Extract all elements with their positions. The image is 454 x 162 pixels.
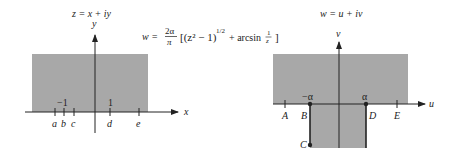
formula-body: [(z² − 1) bbox=[180, 31, 217, 44]
formula-frac2-num: 1 bbox=[267, 29, 271, 37]
tick-one: 1 bbox=[108, 97, 113, 108]
point-E: E bbox=[393, 110, 400, 121]
point-A: A bbox=[281, 110, 289, 121]
z-plane-title: z = x + iy bbox=[71, 8, 112, 19]
u-axis-label: u bbox=[429, 98, 434, 109]
tick-minus-one: −1 bbox=[57, 97, 68, 108]
formula-frac-num: 2α bbox=[165, 26, 175, 36]
point-b: b bbox=[61, 118, 66, 129]
formula-lhs: w = bbox=[142, 31, 158, 42]
formula-frac-den: π bbox=[167, 37, 172, 47]
conformal-map-diagram: x y z = x + iy −1 1 a b c d e w = 2α π [… bbox=[0, 0, 454, 162]
point-e: e bbox=[136, 118, 141, 129]
formula-frac2-den: z bbox=[265, 37, 269, 45]
mapping-formula: w = 2α π [(z² − 1) 1/2 + arcsin 1 z ] bbox=[142, 26, 279, 47]
tick-minus-alpha: −α bbox=[302, 91, 314, 102]
tick-alpha: α bbox=[362, 91, 368, 102]
point-minus-alpha-dot bbox=[308, 102, 312, 106]
x-axis-label: x bbox=[183, 106, 189, 117]
w-plane-shaded-upper bbox=[273, 54, 408, 104]
v-axis-label: v bbox=[336, 28, 341, 39]
formula-close: ] bbox=[275, 31, 279, 43]
formula-exponent: 1/2 bbox=[216, 27, 225, 35]
point-C: C bbox=[300, 139, 307, 150]
formula-tail: + arcsin bbox=[229, 32, 261, 43]
point-d: d bbox=[107, 118, 113, 129]
z-plane-shaded-region bbox=[32, 54, 148, 112]
point-C-dot bbox=[308, 143, 312, 147]
w-plane-title: w = u + iv bbox=[320, 8, 363, 19]
point-alpha-dot bbox=[364, 102, 368, 106]
w-plane: u v w = u + iv −α α A B C D E bbox=[273, 8, 434, 150]
point-a: a bbox=[52, 118, 57, 129]
point-c: c bbox=[71, 118, 76, 129]
y-axis-label: y bbox=[91, 18, 97, 29]
point-D: D bbox=[368, 110, 377, 121]
w-plane-shaded-strip bbox=[310, 104, 366, 148]
point-B: B bbox=[301, 110, 307, 121]
